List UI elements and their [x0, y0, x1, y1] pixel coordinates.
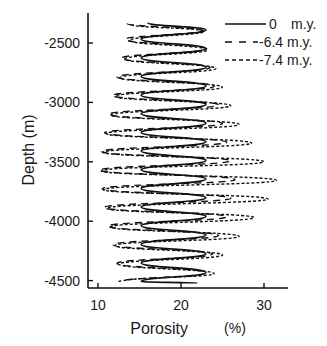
y-tick-label: -4500 [44, 273, 80, 289]
legend-unit-2: m.y. [287, 52, 312, 68]
x-axis-title: Porosity [130, 320, 188, 337]
legend-label-1: -6.4 [259, 34, 283, 50]
y-tick-label: -3000 [44, 94, 80, 110]
x-axis-unit: (%) [224, 320, 246, 336]
y-tick-label: -4000 [44, 213, 80, 229]
x-tick-label: 10 [90, 297, 106, 313]
porosity-depth-chart: -2500-3000-3500-4000-4500 102030 Depth (… [0, 0, 327, 346]
y-tick-label: -2500 [44, 35, 80, 51]
x-tick-label: 20 [173, 297, 189, 313]
legend-label-2: -7.4 [259, 52, 283, 68]
y-tick-label: -3500 [44, 154, 80, 170]
legend-label-0: 0 [269, 16, 277, 32]
plot-area [100, 23, 277, 283]
x-tick-label: 30 [256, 297, 272, 313]
y-axis-title: Depth (m) [20, 114, 37, 185]
legend-unit-1: m.y. [287, 34, 312, 50]
y-axis-ticks: -2500-3000-3500-4000-4500 [44, 35, 93, 289]
legend: 0 m.y. -6.4 m.y. -7.4 m.y. [225, 16, 316, 68]
legend-unit-0: m.y. [291, 16, 316, 32]
